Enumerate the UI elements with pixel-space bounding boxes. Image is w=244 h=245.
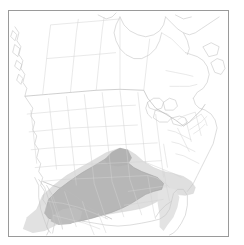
- distribution-map-figure: [0, 0, 244, 245]
- map-frame: [8, 10, 229, 237]
- map-canvas: [9, 11, 228, 236]
